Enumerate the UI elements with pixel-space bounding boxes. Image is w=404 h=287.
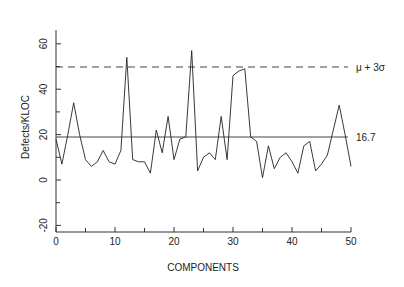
x-tick-label: 10 xyxy=(109,236,121,247)
y-tick-label: 60 xyxy=(38,38,49,50)
control-chart: -200204060 01020304050 16.7μ + 3σ COMPON… xyxy=(0,0,404,287)
x-axis-title: COMPONENTS xyxy=(167,262,239,273)
mean-label: 16.7 xyxy=(356,132,376,143)
x-axis: 01020304050 xyxy=(53,227,357,247)
x-tick-label: 40 xyxy=(286,236,298,247)
x-tick-label: 30 xyxy=(227,236,239,247)
x-tick-label: 50 xyxy=(345,236,357,247)
ucl-label: μ + 3σ xyxy=(356,62,386,73)
defects-series-line xyxy=(56,51,351,178)
y-tick-label: 0 xyxy=(38,177,49,183)
reference-lines: 16.7μ + 3σ xyxy=(56,62,386,143)
x-tick-label: 20 xyxy=(168,236,180,247)
y-tick-label: 20 xyxy=(38,129,49,141)
x-tick-label: 0 xyxy=(53,236,59,247)
y-tick-label: 40 xyxy=(38,83,49,95)
y-axis: -200204060 xyxy=(38,30,61,233)
y-axis-title: Defects/KLOC xyxy=(20,95,31,159)
y-tick-label: -20 xyxy=(38,218,49,233)
